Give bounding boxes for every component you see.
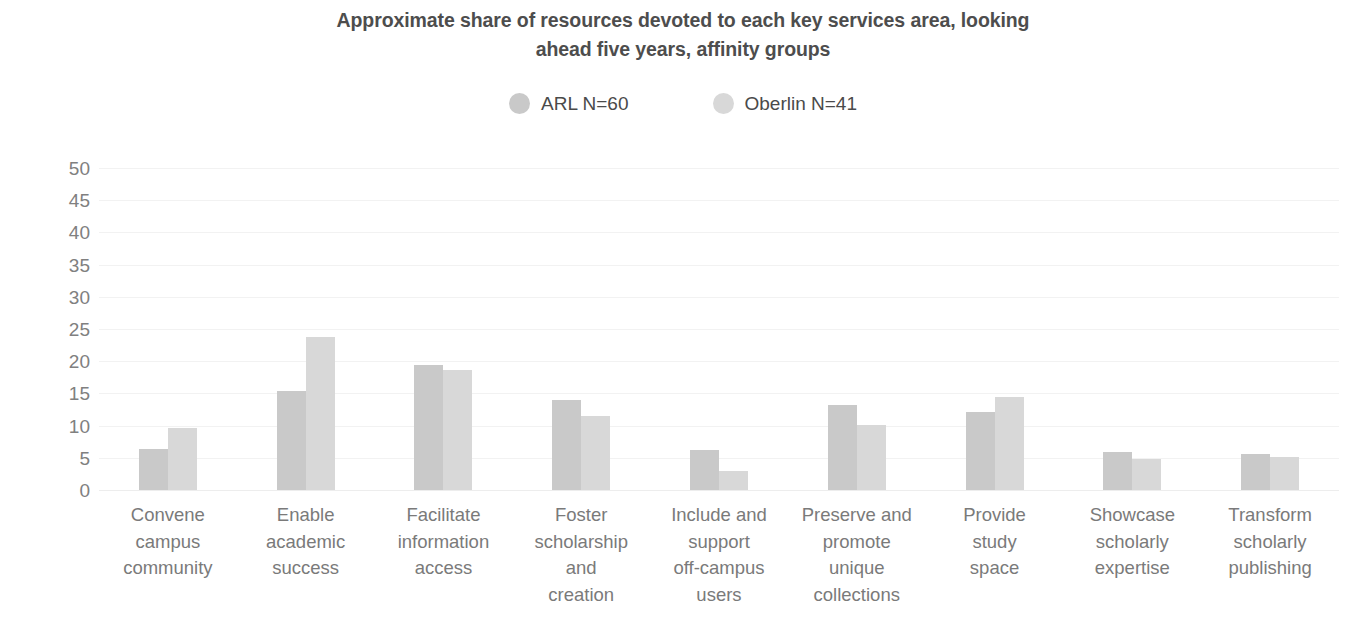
bar-arl[interactable]: [139, 449, 168, 490]
x-axis-category-label: Include andsupportoff-campususers: [650, 502, 788, 608]
bar-oberlin[interactable]: [443, 370, 472, 490]
x-axis-label-line: Convene: [99, 502, 237, 529]
x-axis-label-line: campus: [99, 529, 237, 556]
y-axis-tick-label: 25: [69, 320, 90, 339]
y-axis-tick-label: 15: [69, 384, 90, 403]
x-axis-label-line: Preserve and: [788, 502, 926, 529]
chart-baseline-axis: [99, 490, 1339, 491]
x-axis-label-line: Showcase: [1063, 502, 1201, 529]
bar-arl[interactable]: [277, 391, 306, 490]
x-axis-label-line: community: [99, 555, 237, 582]
y-axis-tick-label: 40: [69, 223, 90, 242]
x-axis-label-line: scholarly: [1063, 529, 1201, 556]
x-axis-label-line: academic: [237, 529, 375, 556]
bar-arl[interactable]: [552, 400, 581, 490]
x-axis-label-line: study: [926, 529, 1064, 556]
y-axis-tick-label: 30: [69, 287, 90, 306]
bar-arl[interactable]: [690, 450, 719, 490]
y-axis-tick-label: 35: [69, 255, 90, 274]
bar-group: [788, 168, 926, 490]
bar-group: [1201, 168, 1339, 490]
bar-oberlin[interactable]: [1132, 459, 1161, 490]
bar-group: [375, 168, 513, 490]
y-axis-tick-label: 20: [69, 352, 90, 371]
y-axis-tick-label: 5: [79, 448, 90, 467]
x-axis-labels: ConvenecampuscommunityEnableacademicsucc…: [99, 502, 1339, 642]
bar-oberlin[interactable]: [581, 416, 610, 490]
bar-group: [99, 168, 237, 490]
x-axis-label-line: off-campus: [650, 555, 788, 582]
bar-group: [926, 168, 1064, 490]
x-axis-label-line: space: [926, 555, 1064, 582]
bar-oberlin[interactable]: [995, 397, 1024, 490]
bar-group: [1063, 168, 1201, 490]
x-axis-category-label: Fosterscholarshipandcreation: [512, 502, 650, 608]
y-axis-tick-label: 0: [79, 481, 90, 500]
x-axis-label-line: support: [650, 529, 788, 556]
x-axis-label-line: success: [237, 555, 375, 582]
chart-plot-area: 50454035302520151050 Convenecampuscommun…: [0, 0, 1366, 642]
bar-group: [237, 168, 375, 490]
x-axis-label-line: promote: [788, 529, 926, 556]
y-axis-tick-label: 50: [69, 159, 90, 178]
x-axis-label-line: scholarship: [512, 529, 650, 556]
y-axis-ticks: 50454035302520151050: [46, 168, 90, 490]
y-axis-tick-label: 45: [69, 191, 90, 210]
bar-oberlin[interactable]: [857, 425, 886, 490]
x-axis-label-line: expertise: [1063, 555, 1201, 582]
x-axis-category-label: Enableacademicsuccess: [237, 502, 375, 582]
x-axis-label-line: Facilitate: [375, 502, 513, 529]
x-axis-label-line: access: [375, 555, 513, 582]
x-axis-label-line: creation: [512, 582, 650, 609]
x-axis-label-line: publishing: [1201, 555, 1339, 582]
x-axis-label-line: information: [375, 529, 513, 556]
x-axis-category-label: Transformscholarlypublishing: [1201, 502, 1339, 582]
x-axis-category-label: Providestudyspace: [926, 502, 1064, 582]
x-axis-label-line: Include and: [650, 502, 788, 529]
bar-arl[interactable]: [828, 405, 857, 490]
bar-arl[interactable]: [966, 412, 995, 490]
x-axis-category-label: Preserve andpromoteuniquecollections: [788, 502, 926, 608]
chart-bars-layer: [99, 168, 1339, 490]
x-axis-label-line: users: [650, 582, 788, 609]
y-axis-tick-label: 10: [69, 416, 90, 435]
x-axis-label-line: Foster: [512, 502, 650, 529]
x-axis-category-label: Convenecampuscommunity: [99, 502, 237, 582]
x-axis-label-line: scholarly: [1201, 529, 1339, 556]
bar-arl[interactable]: [1103, 452, 1132, 490]
x-axis-label-line: Enable: [237, 502, 375, 529]
x-axis-label-line: unique: [788, 555, 926, 582]
bar-oberlin[interactable]: [1270, 457, 1299, 490]
bar-oberlin[interactable]: [306, 337, 335, 490]
bar-arl[interactable]: [1241, 454, 1270, 490]
x-axis-category-label: Facilitateinformationaccess: [375, 502, 513, 582]
bar-group: [512, 168, 650, 490]
x-axis-label-line: collections: [788, 582, 926, 609]
bar-arl[interactable]: [414, 365, 443, 490]
x-axis-label-line: Provide: [926, 502, 1064, 529]
x-axis-label-line: Transform: [1201, 502, 1339, 529]
bar-oberlin[interactable]: [168, 428, 197, 490]
x-axis-category-label: Showcasescholarlyexpertise: [1063, 502, 1201, 582]
x-axis-label-line: and: [512, 555, 650, 582]
bar-oberlin[interactable]: [719, 471, 748, 490]
bar-group: [650, 168, 788, 490]
